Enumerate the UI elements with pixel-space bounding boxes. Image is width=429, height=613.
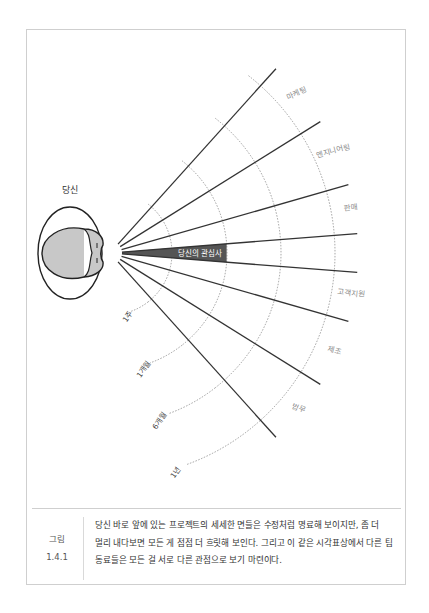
view-ray — [122, 234, 357, 253]
focus-label: 당신의 관심사 — [178, 248, 222, 258]
view-ray — [120, 122, 320, 247]
department-label: 법무 — [290, 400, 307, 415]
view-ray — [118, 262, 276, 437]
time-arc-leader — [150, 345, 182, 363]
department-label: 엔지니어링 — [315, 141, 351, 159]
department-label: 고객지원 — [337, 286, 366, 299]
time-arc-leader — [168, 388, 215, 414]
time-arc — [249, 76, 335, 431]
figure-label-word: 그림 — [32, 530, 82, 548]
view-ray — [118, 69, 276, 244]
caption-separator — [83, 517, 84, 580]
department-label: 제조 — [327, 344, 343, 356]
person-head-icon — [38, 207, 103, 299]
view-ray — [122, 185, 349, 250]
caption-text: 당신 바로 앞에 있는 프로젝트의 세세한 면들은 수정처럼 명료해 보이지만,… — [95, 517, 397, 570]
time-arc-leader — [187, 430, 249, 464]
view-ray — [122, 256, 349, 321]
time-label: 1개월 — [134, 358, 153, 379]
figure-label-number: 1.4.1 — [32, 548, 82, 566]
view-ray — [122, 254, 357, 273]
time-label: 1주 — [121, 309, 135, 324]
time-labels: 1주1개월6개월1년 — [121, 309, 183, 480]
department-label: 마케팅 — [285, 84, 308, 102]
figure-number: 그림 1.4.1 — [32, 530, 82, 566]
time-arc-leader — [131, 302, 148, 311]
time-label: 6개월 — [150, 410, 169, 431]
head-shape — [42, 228, 103, 279]
you-label: 당신 — [62, 185, 78, 195]
caption-divider — [32, 508, 401, 509]
time-label: 1년 — [168, 464, 183, 479]
department-label: 판매 — [344, 203, 359, 213]
department-labels: 마케팅엔지니어링판매고객지원제조법무 — [285, 84, 366, 415]
